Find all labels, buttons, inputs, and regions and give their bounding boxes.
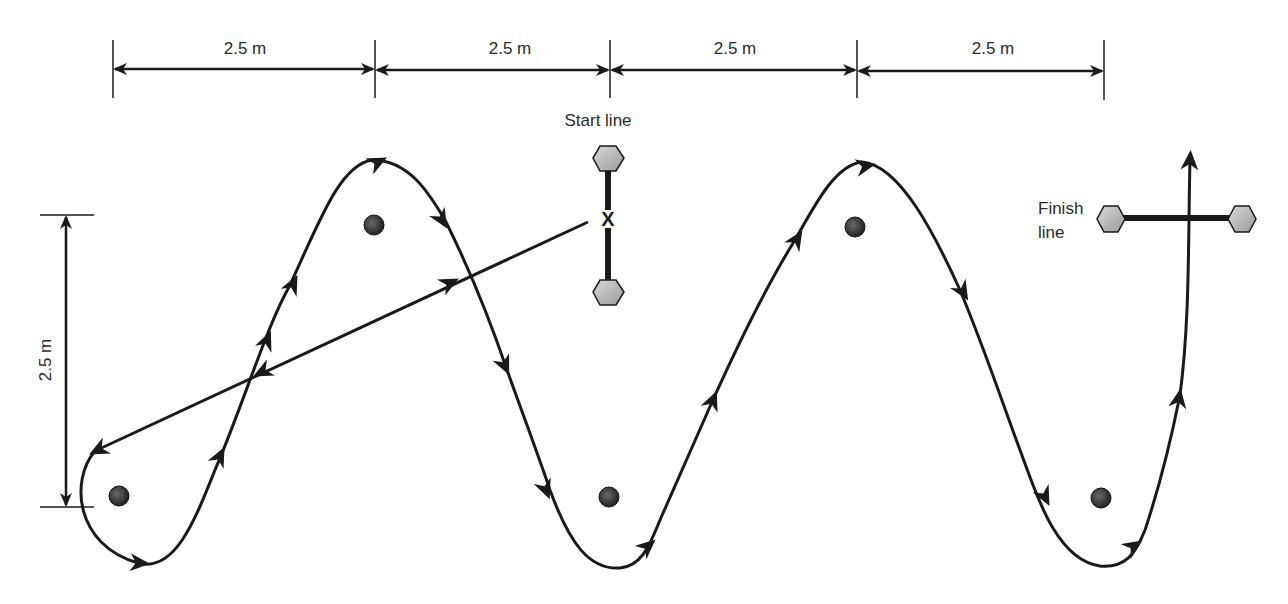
- cone-icon: [599, 487, 619, 507]
- slalom-course-diagram: 2.5 m 2.5 m 2.5 m 2.5 m 2.5 m: [0, 0, 1288, 604]
- finish-line: [1097, 206, 1256, 232]
- start-marker: X: [601, 208, 615, 230]
- start-line: X: [593, 146, 624, 305]
- finish-post-right-icon: [1228, 206, 1256, 232]
- start-line-label: Start line: [564, 111, 631, 130]
- dimension-label-3: 2.5 m: [714, 39, 757, 58]
- course-path: [81, 160, 1190, 568]
- dimension-label-4: 2.5 m: [972, 39, 1015, 58]
- finish-line-label-1: Finish: [1038, 199, 1083, 218]
- cone-icon: [364, 215, 384, 235]
- direction-arrows: [98, 160, 1190, 563]
- dimension-label-2: 2.5 m: [489, 39, 532, 58]
- start-post-bottom-icon: [593, 280, 624, 305]
- cone-icon: [845, 217, 865, 237]
- start-post-top-icon: [593, 146, 624, 171]
- dimension-label-1: 2.5 m: [224, 39, 267, 58]
- cone-icon: [109, 486, 129, 506]
- finish-line-label-2: line: [1038, 223, 1064, 242]
- finish-post-left-icon: [1097, 206, 1125, 232]
- cone-icon: [1091, 488, 1111, 508]
- vertical-dimension-label: 2.5 m: [36, 339, 55, 382]
